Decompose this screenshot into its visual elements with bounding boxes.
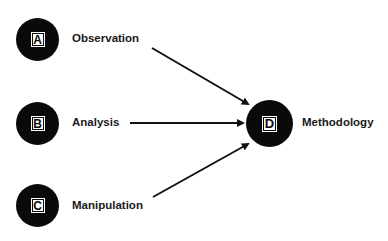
node-d: D xyxy=(246,100,293,147)
node-d-letter: D xyxy=(262,116,277,132)
node-a-label: Observation xyxy=(72,32,139,44)
node-a-letter: A xyxy=(31,32,45,47)
node-c-label: Manipulation xyxy=(72,199,143,211)
node-b: B xyxy=(16,102,59,145)
node-b-label: Analysis xyxy=(72,116,119,128)
arrow-c-to-d xyxy=(153,144,248,197)
node-b-letter: B xyxy=(31,116,45,131)
node-c: C xyxy=(16,184,59,227)
node-d-label: Methodology xyxy=(302,116,374,128)
arrow-a-to-d xyxy=(152,48,248,104)
node-c-letter: C xyxy=(31,198,45,213)
node-a: A xyxy=(16,18,59,61)
